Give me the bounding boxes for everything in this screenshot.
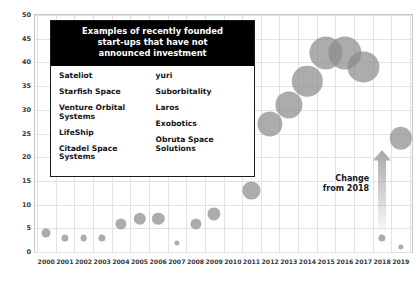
bubble-point [174, 240, 179, 245]
y-tick-label: 35 [22, 82, 31, 90]
x-tick-label: 2018 [374, 258, 391, 265]
x-tick-label: 2002 [75, 258, 92, 265]
callout-body: SateliotStarfish SpaceVenture Orbital Sy… [51, 66, 254, 177]
y-tick-label: 10 [22, 201, 31, 209]
bubble-point [133, 213, 145, 225]
bubble-point [292, 66, 322, 96]
change-arrow: Changefrom 2018 [372, 150, 392, 232]
x-tick-label: 2001 [56, 258, 73, 265]
callout-company-name: Venture Orbital Systems [59, 104, 150, 122]
callout-header-line-3: announced investment [57, 48, 248, 59]
x-tick-label: 2008 [187, 258, 204, 265]
bubble-point [398, 245, 403, 250]
callout-header: Examples of recently foundedstart-ups th… [51, 21, 254, 66]
x-tick-label: 2012 [262, 258, 279, 265]
y-tick-label: 15 [22, 177, 31, 185]
gridline-vertical [37, 15, 38, 252]
bubble-point [390, 127, 412, 149]
x-tick-label: 2015 [318, 258, 335, 265]
x-tick-label: 2003 [94, 258, 111, 265]
y-tick-label: 0 [26, 248, 31, 256]
callout-header-line-2: start-ups that have not [57, 37, 248, 48]
gridline-horizontal [35, 252, 412, 253]
x-tick-label: 2014 [299, 258, 316, 265]
y-tick-label: 50 [22, 11, 31, 19]
callout-company-name: Citadel Space Systems [59, 145, 150, 163]
bubble-point [379, 234, 386, 241]
callout-header-line-1: Examples of recently founded [57, 26, 248, 37]
bubble-point [208, 207, 221, 220]
plot-area: 05101520253035404550 2000200120022003200… [34, 14, 413, 253]
gridline-vertical [298, 15, 299, 252]
y-tick-label: 40 [22, 58, 31, 66]
bubble-point [243, 182, 260, 199]
x-tick-label: 2011 [243, 258, 260, 265]
x-tick-label: 2019 [392, 258, 409, 265]
x-tick-label: 2013 [280, 258, 297, 265]
y-tick-label: 20 [22, 153, 31, 161]
gridline-vertical [279, 15, 280, 252]
bubble-chart: Number of Companies 05101520253035404550… [0, 0, 419, 289]
arrow-icon [372, 150, 392, 232]
callout-company-name: Starfish Space [59, 88, 150, 97]
bubble-point [99, 234, 106, 241]
callout-company-name: Suborbitality [156, 88, 247, 97]
callout-column-2: yuriSuborbitalityLarosExoboticsObruta Sp… [156, 72, 247, 170]
callout-company-name: LifeShip [59, 129, 150, 138]
bubble-point [61, 234, 68, 241]
bubble-point [80, 234, 87, 241]
callout-box: Examples of recently foundedstart-ups th… [50, 20, 255, 178]
x-tick-label: 2000 [38, 258, 55, 265]
annotation-label-line1: Change [323, 174, 369, 184]
x-tick-label: 2006 [150, 258, 167, 265]
x-tick-label: 2010 [224, 258, 241, 265]
bubble-point [348, 52, 379, 83]
bubble-point [152, 213, 164, 225]
x-tick-label: 2017 [355, 258, 372, 265]
annotation-label: Changefrom 2018 [323, 174, 369, 194]
bubble-point [42, 229, 51, 238]
y-tick-label: 45 [22, 35, 31, 43]
x-tick-label: 2009 [206, 258, 223, 265]
callout-company-name: Laros [156, 104, 247, 113]
x-tick-label: 2004 [112, 258, 129, 265]
y-tick-label: 25 [22, 130, 31, 138]
callout-company-name: Sateliot [59, 72, 150, 81]
callout-company-name: Obruta Space Solutions [156, 136, 247, 154]
x-tick-label: 2005 [131, 258, 148, 265]
annotation-label-line2: from 2018 [323, 184, 369, 194]
y-tick-label: 5 [26, 224, 31, 232]
callout-column-1: SateliotStarfish SpaceVenture Orbital Sy… [59, 72, 150, 170]
callout-company-name: Exobotics [156, 120, 247, 129]
x-tick-label: 2007 [168, 258, 185, 265]
y-tick-label: 30 [22, 106, 31, 114]
x-tick-label: 2016 [336, 258, 353, 265]
callout-company-name: yuri [156, 72, 247, 81]
